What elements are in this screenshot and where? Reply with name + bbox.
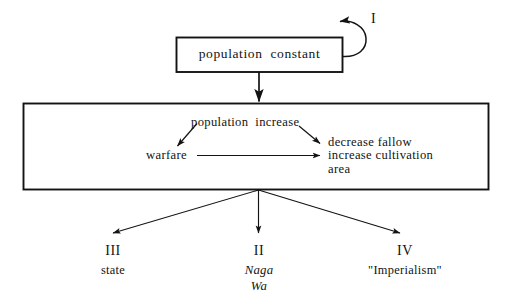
outcome-numeral-iv: IV xyxy=(370,244,440,259)
self-loop-arrow xyxy=(340,21,366,56)
warfare-label: warfare xyxy=(146,149,187,162)
fanout-arrow-iii xyxy=(113,190,259,233)
outcome-label-wa: Wa xyxy=(229,280,289,293)
population-increase-label: population increase xyxy=(191,116,299,129)
outcome-label-naga: Naga xyxy=(229,264,289,277)
increase-cultivation-label: increase cultivation xyxy=(328,149,433,162)
outcome-label-state: state xyxy=(83,264,143,277)
loop-label-i: I xyxy=(371,12,376,27)
increase-to-fallow-arrow xyxy=(299,126,320,144)
top-box-label: population constant xyxy=(197,47,322,61)
diagram-canvas: I population constant population increas… xyxy=(0,0,513,307)
outcome-label-imperialism: "Imperialism" xyxy=(352,264,458,277)
outcome-numeral-iii: III xyxy=(83,244,143,259)
outcome-numeral-ii: II xyxy=(229,244,289,259)
fanout-arrow-iv xyxy=(259,190,401,233)
area-label: area xyxy=(328,163,350,176)
